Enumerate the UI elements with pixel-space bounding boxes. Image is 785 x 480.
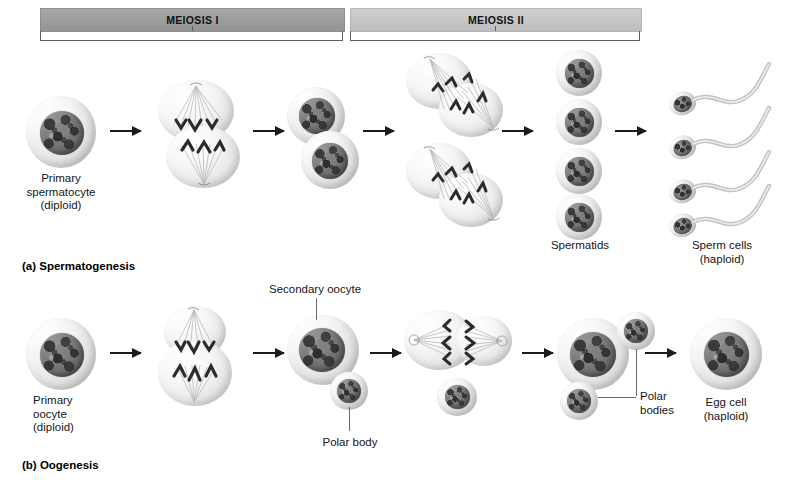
label-polar-body: Polar body <box>305 436 395 450</box>
arrow-sperm-5 <box>615 130 646 132</box>
arrow-oo-2 <box>253 352 284 354</box>
cell-meiosis-1-division-sperm <box>152 80 248 190</box>
cell-spermatid-4 <box>556 194 602 240</box>
cell-meiosis-1-division-oocyte <box>152 306 248 408</box>
spindle-and-chromosomes <box>406 143 506 229</box>
cell-polar-body-1 <box>330 372 368 410</box>
nucleus <box>299 328 345 372</box>
label-primary-spermatocyte: Primary spermatocyte (diploid) <box>11 172 111 213</box>
label-secondary-oocyte: Secondary oocyte <box>255 283 375 297</box>
arrow-oo-3 <box>370 352 401 354</box>
spindle-and-chromosomes <box>404 310 520 372</box>
nucleus <box>299 98 335 134</box>
bracket-tick <box>495 26 496 31</box>
cell-primary-spermatocyte <box>26 96 96 168</box>
nucleus <box>337 379 361 403</box>
cell-meiosis-2-division-oocyte <box>404 310 520 372</box>
cell-egg <box>690 318 762 390</box>
label-egg-cell: Egg cell (haploid) <box>676 396 776 423</box>
nucleus <box>445 385 470 409</box>
leader-polar-bodies-upper <box>636 349 637 396</box>
cell-spermatid-3 <box>556 148 602 194</box>
nucleus <box>312 143 348 179</box>
meiosis-diagram: MEIOSIS I MEIOSIS II Primary spermatocyt… <box>0 0 785 480</box>
cell-secondary-spermatocyte-2 <box>301 131 359 189</box>
nucleus <box>565 157 594 186</box>
nucleus <box>40 111 84 155</box>
bracket-tick <box>192 26 193 31</box>
cell-spermatid-1 <box>556 50 602 96</box>
leader-polar-bodies-lower <box>598 397 636 398</box>
arrow-oo-4 <box>522 352 553 354</box>
cell-spermatid-2 <box>556 99 602 145</box>
label-spermatids: Spermatids <box>542 239 618 253</box>
arrow-sperm-4 <box>502 130 533 132</box>
cell-meiosis-2-division-sperm-upper <box>406 53 506 139</box>
nucleus <box>565 203 594 232</box>
nucleus <box>704 332 749 377</box>
phase-label-meiosis-1: MEIOSIS I <box>166 14 219 26</box>
nucleus <box>565 108 594 137</box>
caption-oogenesis: (b) Oogenesis <box>22 459 99 471</box>
nucleus <box>565 59 594 88</box>
arrow-sperm-3 <box>363 130 394 132</box>
caption-spermatogenesis: (a) Spermatogenesis <box>22 260 135 272</box>
bracket-meiosis-2 <box>350 31 640 41</box>
cell-polar-body-2 <box>437 378 477 416</box>
phase-bar-meiosis-1: MEIOSIS I <box>40 8 345 32</box>
spindle-and-chromosomes <box>406 53 506 139</box>
phase-label-meiosis-2: MEIOSIS II <box>468 14 524 26</box>
label-primary-oocyte: Primary oocyte (diploid) <box>33 394 123 435</box>
arrow-oo-5 <box>645 352 676 354</box>
cell-polar-body-4 <box>560 382 598 420</box>
nucleus <box>570 332 616 377</box>
nucleus <box>567 389 591 413</box>
nucleus <box>40 333 84 377</box>
label-sperm-cells: Sperm cells (haploid) <box>672 239 772 266</box>
cell-polar-body-3 <box>617 312 655 350</box>
cell-meiosis-2-division-sperm-lower <box>406 143 506 229</box>
cell-primary-oocyte <box>26 318 96 390</box>
arrow-oo-1 <box>110 352 141 354</box>
bracket-meiosis-1 <box>40 31 343 41</box>
arrow-sperm-2 <box>253 130 284 132</box>
nucleus <box>624 319 648 343</box>
leader-secondary-oocyte <box>316 298 317 320</box>
arrow-sperm-1 <box>110 130 141 132</box>
leader-polar-body <box>349 407 350 431</box>
spindle-and-chromosomes <box>152 306 248 408</box>
phase-bar-meiosis-2: MEIOSIS II <box>350 8 642 32</box>
spindle-and-chromosomes <box>152 80 248 190</box>
